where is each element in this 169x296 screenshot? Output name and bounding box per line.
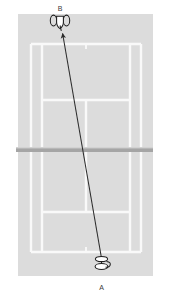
player-a-head [95,256,107,261]
tennis-court-diagram: B A [0,0,169,296]
net-top-edge [16,147,153,148]
player-a-body [95,264,108,270]
court-svg: B A [0,0,169,296]
player-b-label: B [58,5,63,12]
net [16,147,153,152]
player-a-label: A [99,284,104,291]
